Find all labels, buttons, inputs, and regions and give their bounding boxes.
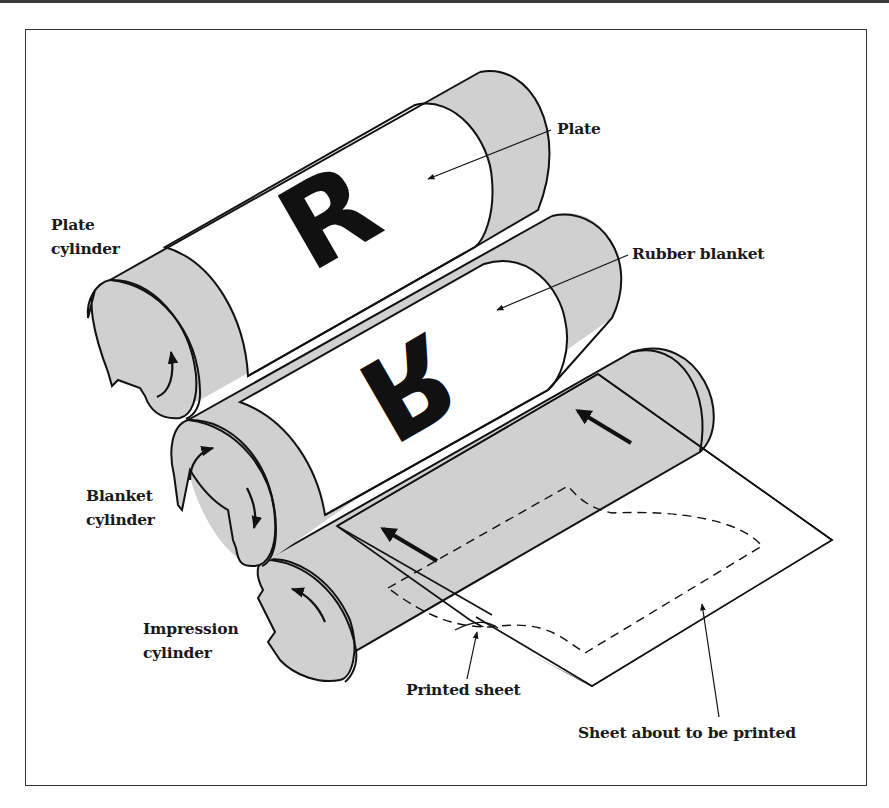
label-plate-cylinder-line1: Plate [51, 213, 120, 237]
label-plate-cylinder: Plate cylinder [51, 213, 120, 261]
label-blanket-cylinder: Blanket cylinder [86, 484, 155, 532]
label-plate-cylinder-line2: cylinder [51, 237, 120, 261]
label-rubber-blanket: Rubber blanket [632, 242, 764, 266]
printed-sheet-leader [467, 632, 477, 679]
label-blanket-cylinder-line2: cylinder [86, 508, 155, 532]
label-printed-sheet: Printed sheet [406, 678, 521, 702]
sheet-about-to-be-printed-leader [702, 604, 719, 717]
label-impression-cylinder-line2: cylinder [143, 641, 238, 665]
label-impression-cylinder-line1: Impression [143, 617, 238, 641]
label-plate: Plate [557, 117, 601, 141]
label-blanket-cylinder-line1: Blanket [86, 484, 155, 508]
label-sheet-about-to-be-printed: Sheet about to be printed [578, 721, 796, 745]
label-impression-cylinder: Impression cylinder [143, 617, 238, 665]
